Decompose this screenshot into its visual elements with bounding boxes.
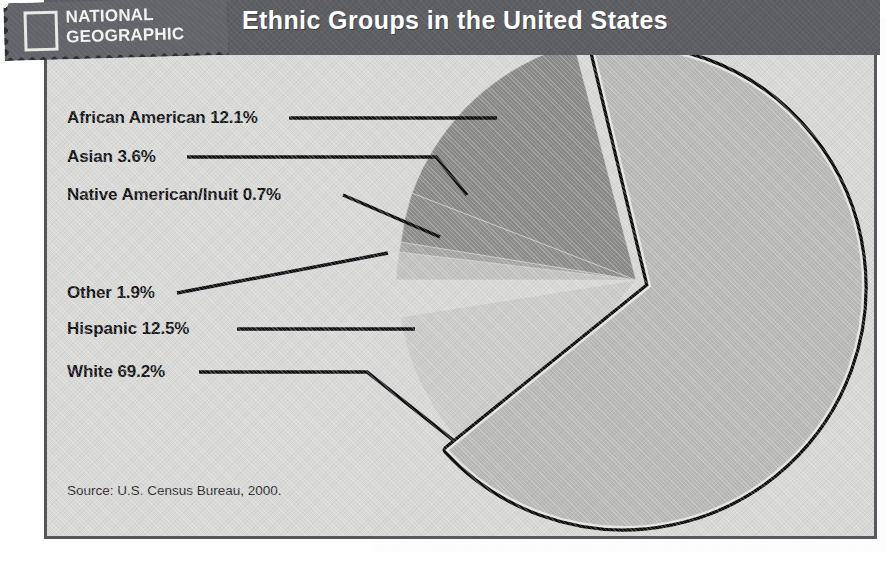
label-asian: Asian 3.6% [67,147,156,167]
label-native-american: Native American/Inuit 0.7% [67,185,281,205]
natgeo-logo-badge: NATIONAL GEOGRAPHIC [3,0,229,61]
label-hispanic: Hispanic 12.5% [67,319,189,339]
chart-panel: African American 12.1% Asian 3.6% Native… [44,52,877,539]
label-white: White 69.2% [67,362,165,382]
callout-labels: African American 12.1% Asian 3.6% Native… [47,52,880,539]
natgeo-wordmark: NATIONAL GEOGRAPHIC [65,4,184,47]
chart-canvas: African American 12.1% Asian 3.6% Native… [0,0,886,565]
label-african-american: African American 12.1% [67,108,258,128]
label-other: Other 1.9% [67,283,155,303]
source-note: Source: U.S. Census Bureau, 2000. [67,483,282,498]
natgeo-yellow-rectangle-icon [23,11,58,52]
natgeo-wordmark-line2: GEOGRAPHIC [66,24,185,47]
